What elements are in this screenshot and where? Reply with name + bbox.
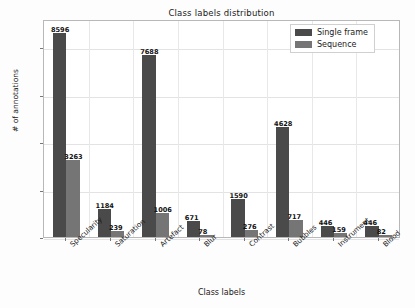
bar-value-label: 82	[377, 228, 386, 236]
bar-value-label: 78	[198, 228, 207, 236]
x-tick-label-blood: Blood	[381, 242, 387, 249]
x-tick-mark	[378, 238, 379, 241]
y-gridline	[44, 144, 399, 145]
bar-value-label: 1006	[154, 206, 172, 214]
y-tick-mark	[40, 191, 43, 192]
x-tick-mark	[65, 238, 66, 241]
y-tick-mark	[40, 48, 43, 49]
bar-value-label: 1184	[96, 202, 114, 210]
y-gridline	[44, 97, 399, 98]
bar-value-label: 276	[243, 223, 257, 231]
bar-value-label: 1590	[229, 192, 247, 200]
x-tick-mark	[244, 238, 245, 241]
legend-swatch-sequence	[295, 41, 312, 48]
x-gridline	[267, 21, 268, 237]
x-tick-mark	[333, 238, 334, 241]
bar-specularity-single-frame	[53, 33, 66, 237]
legend-swatch-single-frame	[295, 29, 312, 36]
x-gridline	[133, 21, 134, 237]
x-tick-mark	[199, 238, 200, 241]
y-axis-label: # of annotations	[11, 46, 20, 156]
x-tick-label-artefact: Artefact	[158, 242, 164, 249]
bar-value-label: 4628	[274, 120, 292, 128]
x-gridline	[89, 21, 90, 237]
y-gridline	[44, 192, 399, 193]
chart-title: Class labels distribution	[43, 8, 400, 18]
x-tick-mark	[110, 238, 111, 241]
bar-value-label: 3263	[64, 153, 82, 161]
bar-value-label: 7688	[140, 48, 158, 56]
bar-value-label: 671	[185, 214, 199, 222]
legend-item-sequence: Sequence	[295, 40, 368, 49]
legend-item-single-frame: Single frame	[295, 28, 368, 37]
x-gridline	[178, 21, 179, 237]
x-tick-label-blur: Blur	[202, 242, 208, 249]
chart-legend: Single frame Sequence	[290, 24, 375, 53]
bar-value-label: 717	[287, 213, 301, 221]
y-tick-mark	[40, 143, 43, 144]
x-tick-label-instrument: Instrument	[336, 242, 342, 249]
bar-value-label: 446	[363, 219, 377, 227]
legend-label-single-frame: Single frame	[317, 28, 368, 37]
x-gridline	[223, 21, 224, 237]
x-tick-label-bubbles: Bubbles	[291, 242, 297, 249]
bar-value-label: 159	[332, 226, 346, 234]
x-tick-mark	[288, 238, 289, 241]
y-tick-mark	[40, 238, 43, 239]
bar-specularity-sequence	[66, 160, 79, 237]
x-tick-label-specularity: Specularity	[68, 242, 74, 249]
x-tick-label-saturation: Saturation	[113, 242, 119, 249]
x-gridline	[312, 21, 313, 237]
bar-value-label: 446	[319, 219, 333, 227]
bar-value-label: 8596	[51, 26, 69, 34]
legend-label-sequence: Sequence	[317, 40, 356, 49]
y-tick-mark	[40, 96, 43, 97]
x-tick-label-contrast: Contrast	[247, 242, 253, 249]
chart-figure: Class labels distribution # of annotatio…	[0, 0, 415, 308]
bar-value-label: 239	[109, 224, 123, 232]
x-tick-mark	[155, 238, 156, 241]
x-axis-label: Class labels	[43, 288, 400, 297]
x-gridline	[356, 21, 357, 237]
